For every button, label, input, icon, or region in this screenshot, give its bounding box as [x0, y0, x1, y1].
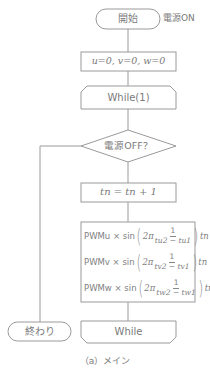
decision-label: 電源OFF？: [81, 141, 176, 151]
power-on-annotation: 電源ON: [163, 14, 195, 23]
connector-decision-end: [40, 146, 81, 322]
loop-end-label: While: [81, 327, 176, 337]
pwm-w-formula: PWMw × sin ( 2π 1tw2 − tw1 ) tn: [84, 276, 194, 300]
loop-start-label: While(1): [81, 93, 176, 103]
increment-label: tn = tn + 1: [81, 187, 176, 197]
start-label: 開始: [96, 14, 160, 24]
pwm-v-formula: PWMv × sin ( 2π 1tv2 − tv1 ) tn: [84, 250, 194, 274]
end-label: 終わり: [8, 327, 71, 337]
pwm-u-formula: PWMu × sin ( 2π 1tu2 − tu1 ) tn: [84, 224, 194, 248]
init-label: u=0, v=0, w=0: [81, 56, 176, 66]
figure-caption: （a）メイン: [60, 357, 150, 366]
